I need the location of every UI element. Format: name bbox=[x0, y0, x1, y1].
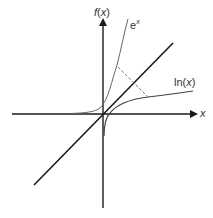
ln-label: ln(x) bbox=[174, 76, 195, 88]
reflection-dashed-line bbox=[118, 67, 148, 97]
exp-curve bbox=[70, 19, 128, 114]
function-diagram bbox=[0, 0, 213, 218]
y-axis-label: f(x) bbox=[94, 6, 110, 18]
x-axis-label: x bbox=[200, 107, 206, 119]
exp-label: ex bbox=[130, 18, 140, 31]
